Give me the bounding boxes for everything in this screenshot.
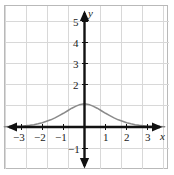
y-tick-label-neg1: −1 <box>68 144 80 155</box>
y-tick-label-5: 5 <box>73 17 79 28</box>
y-tick-label-3: 3 <box>73 59 79 70</box>
coordinate-axes <box>0 0 174 175</box>
x-tick-label-neg2: −2 <box>34 132 46 143</box>
x-tick-label-1: 1 <box>103 132 109 143</box>
x-tick-label-2: 2 <box>124 132 130 143</box>
y-axis-label: y <box>88 8 93 19</box>
y-tick-label-2: 2 <box>73 80 79 91</box>
graph-figure: −3 −2 −1 1 2 3 5 4 3 2 −1 y x <box>0 0 174 175</box>
x-tick-label-neg1: −1 <box>55 132 67 143</box>
x-axis-label: x <box>160 131 165 142</box>
y-tick-label-4: 4 <box>73 38 79 49</box>
x-tick-label-3: 3 <box>145 132 151 143</box>
x-tick-label-neg3: −3 <box>13 132 25 143</box>
